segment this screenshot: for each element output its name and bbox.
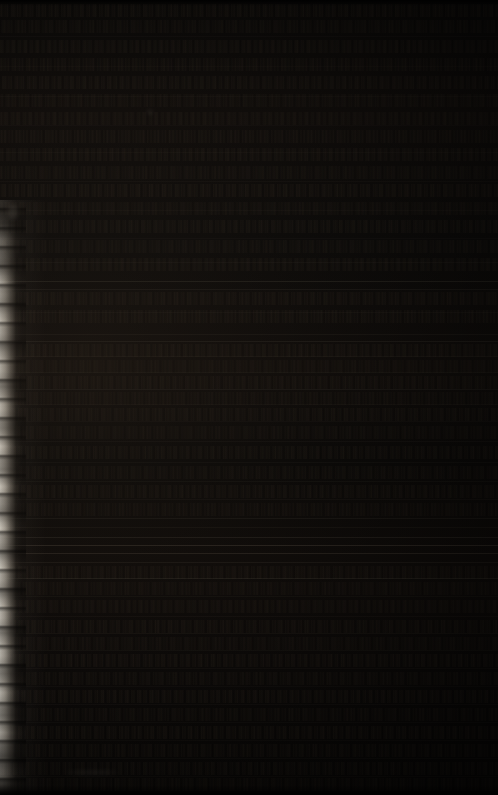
paper-background [0,0,498,795]
manuscript-photo [0,0,498,795]
